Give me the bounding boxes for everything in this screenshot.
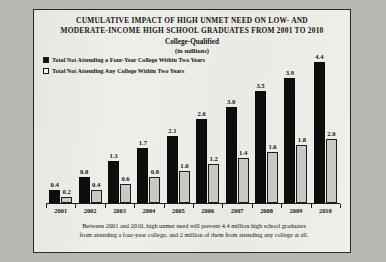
bar-value-label: 0.6: [121, 175, 129, 182]
bar-series-1-2004: 1.7: [137, 148, 148, 203]
bar-group: 2.11.0: [164, 52, 193, 203]
bar-value-label: 1.2: [210, 155, 218, 162]
bar-series-1-2002: 0.8: [79, 177, 90, 203]
bar-value-label: 0.4: [92, 181, 100, 188]
page-title-line-1: CUMULATIVE IMPACT OF HIGH UNMET NEED ON …: [34, 16, 350, 26]
bar-value-label: 1.6: [268, 143, 276, 150]
bar-value-label: 4.4: [315, 53, 323, 60]
bar-value-label: 1.8: [298, 136, 306, 143]
bar-series-2-2002: 0.4: [91, 190, 102, 203]
bar-group: 0.40.2: [46, 52, 75, 203]
bar-value-label: 0.8: [151, 168, 159, 175]
chart-title-block: CUMULATIVE IMPACT OF HIGH UNMET NEED ON …: [34, 16, 350, 56]
x-axis-label-2005: 2005: [164, 207, 193, 214]
bar-pair: 0.40.2: [49, 52, 72, 203]
bar-value-label: 2.1: [168, 127, 176, 134]
bar-group: 3.01.4: [222, 52, 251, 203]
bar-value-label: 3.5: [256, 82, 264, 89]
bar-group: 1.70.8: [134, 52, 163, 203]
chart-footnote: Between 2001 and 2010, high unmet need w…: [48, 221, 340, 239]
bar-pair: 1.30.6: [108, 52, 131, 203]
x-axis-label-2006: 2006: [193, 207, 222, 214]
x-axis-label-2009: 2009: [281, 207, 310, 214]
x-axis-label-2003: 2003: [105, 207, 134, 214]
chart-plot-area: 0.40.20.80.41.30.61.70.82.11.02.61.23.01…: [46, 52, 340, 204]
bar-value-label: 0.2: [63, 188, 71, 195]
chart-sheet: CUMULATIVE IMPACT OF HIGH UNMET NEED ON …: [33, 9, 351, 253]
bar-group: 3.51.6: [252, 52, 281, 203]
bar-series-2-2003: 0.6: [120, 184, 131, 203]
bar-series-1-2006: 2.6: [196, 119, 207, 203]
bar-group: 0.80.4: [75, 52, 104, 203]
bar-value-label: 1.7: [139, 139, 147, 146]
bar-pair: 3.91.8: [284, 52, 307, 203]
bar-series-1-2005: 2.1: [167, 136, 178, 203]
x-axis-label-2001: 2001: [46, 207, 75, 214]
x-axis-labels: 2001200220032004200520062007200820092010: [46, 207, 340, 214]
bar-group: 2.61.2: [193, 52, 222, 203]
bar-series-1-2003: 1.3: [108, 161, 119, 203]
bar-value-label: 0.8: [80, 168, 88, 175]
bar-series-1-2010: 4.4: [314, 62, 325, 203]
bar-series-1-2001: 0.4: [49, 190, 60, 203]
bar-series-2-2008: 1.6: [267, 152, 278, 203]
footnote-line-1: Between 2001 and 2010, high unmet need w…: [48, 221, 340, 230]
bar-series-1-2009: 3.9: [284, 78, 295, 203]
page-title-line-2: MODERATE-INCOME HIGH SCHOOL GRADUATES FR…: [34, 26, 350, 36]
bar-series-1-2008: 3.5: [255, 91, 266, 203]
bar-value-label: 1.3: [109, 152, 117, 159]
bar-pair: 4.42.0: [314, 52, 337, 203]
screenshot-canvas: CUMULATIVE IMPACT OF HIGH UNMET NEED ON …: [0, 0, 386, 262]
bar-value-label: 0.4: [51, 181, 59, 188]
bar-series-1-2007: 3.0: [226, 107, 237, 203]
bar-series-2-2007: 1.4: [238, 158, 249, 203]
bar-series-2-2004: 0.8: [149, 177, 160, 203]
bar-series-2-2010: 2.0: [326, 139, 337, 203]
bar-pair: 3.51.6: [255, 52, 278, 203]
x-axis-label-2010: 2010: [311, 207, 340, 214]
bar-series-2-2009: 1.8: [296, 145, 307, 203]
x-axis-label-2007: 2007: [222, 207, 251, 214]
bar-pair: 0.80.4: [79, 52, 102, 203]
bar-value-label: 2.6: [198, 110, 206, 117]
bar-group: 4.42.0: [311, 52, 340, 203]
bar-value-label: 1.0: [180, 162, 188, 169]
bar-value-label: 2.0: [327, 130, 335, 137]
bar-group: 3.91.8: [281, 52, 310, 203]
bar-value-label: 3.9: [286, 69, 294, 76]
footnote-line-2: from attending a four-year college, and …: [48, 230, 340, 239]
bar-series-2-2006: 1.2: [208, 164, 219, 203]
x-axis-tick: [340, 204, 341, 208]
bar-value-label: 3.0: [227, 98, 235, 105]
bar-pair: 1.70.8: [137, 52, 160, 203]
bar-value-label: 1.4: [239, 149, 247, 156]
bar-series-2-2005: 1.0: [179, 171, 190, 203]
bar-group: 1.30.6: [105, 52, 134, 203]
chart-subtitle: College-Qualified: [34, 38, 350, 47]
x-axis-label-2004: 2004: [134, 207, 163, 214]
bar-pair: 2.61.2: [196, 52, 219, 203]
x-axis-label-2002: 2002: [75, 207, 104, 214]
bar-groups: 0.40.20.80.41.30.61.70.82.11.02.61.23.01…: [46, 52, 340, 203]
bar-pair: 3.01.4: [226, 52, 249, 203]
bar-pair: 2.11.0: [167, 52, 190, 203]
x-axis-label-2008: 2008: [252, 207, 281, 214]
